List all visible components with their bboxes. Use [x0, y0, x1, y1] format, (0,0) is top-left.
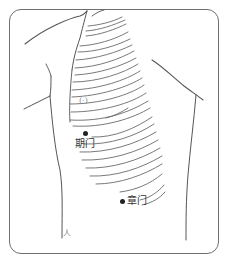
zhangmen-point-dot [120, 199, 125, 204]
left-shoulder-line [25, 11, 87, 44]
nipple-marker: (·) [79, 97, 88, 105]
neck-line [72, 11, 87, 70]
left-arm-line [24, 96, 50, 109]
rib-lines [70, 17, 165, 205]
armpit-line [46, 64, 51, 76]
zhangmen-label: 章门 [127, 196, 147, 206]
sternum-line [70, 70, 72, 122]
right-shoulder-line [152, 60, 203, 100]
left-flank-line [50, 96, 62, 238]
qimen-label: 期门 [75, 139, 95, 149]
right-flank-line [186, 95, 196, 240]
qimen-point-dot [83, 131, 88, 136]
corner-mark: 人 [63, 230, 71, 238]
torso-illustration [0, 0, 227, 266]
